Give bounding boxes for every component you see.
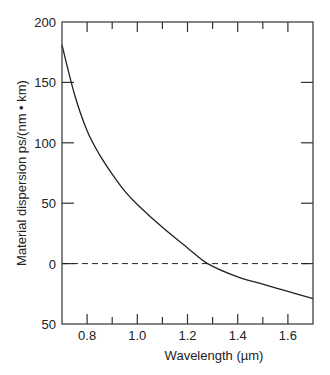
dispersion-curve [62,45,313,299]
x-tick-label: 0.8 [78,328,96,343]
y-tick-label: 0 [49,257,56,272]
tick-labels: 0.81.01.21.41.620015010050050 [34,15,297,343]
x-tick-label: 1.4 [229,328,247,343]
plot-frame [62,22,313,324]
x-tick-label: 1.2 [178,328,196,343]
y-tick-label: 50 [42,196,56,211]
y-tick-label: 150 [34,75,56,90]
dispersion-chart: 0.81.01.21.41.620015010050050 Wavelength… [0,0,330,375]
x-axis-label: Wavelength (µm) [165,348,264,363]
x-tick-label: 1.6 [279,328,297,343]
y-tick-label: 50 [42,317,56,332]
x-tick-label: 1.0 [128,328,146,343]
y-axis-label: Material dispersion ps/(nm • km) [14,80,29,266]
axis-ticks [62,22,313,324]
y-tick-label: 200 [34,15,56,30]
y-tick-label: 100 [34,136,56,151]
